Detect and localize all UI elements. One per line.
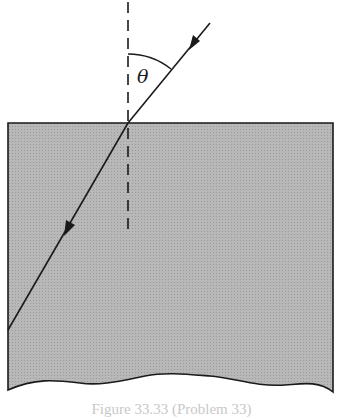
angle-label: θ [137, 65, 149, 87]
medium-block [8, 123, 333, 392]
figure-caption: Figure 33.33 (Problem 33) [0, 401, 343, 418]
angle-arc [128, 54, 171, 69]
